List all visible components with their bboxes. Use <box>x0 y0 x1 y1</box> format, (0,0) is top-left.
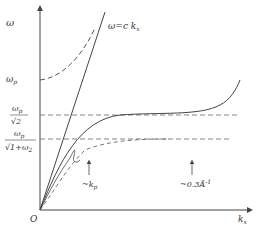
wavenumber-annotation: ~0.3Å-1 <box>180 178 211 189</box>
omega-p-tick-label: ωp <box>6 74 17 86</box>
origin-label: O <box>30 214 38 224</box>
kp-annotation: ~kp <box>82 180 98 191</box>
svg-text:√1+ω2: √1+ω2 <box>5 143 32 153</box>
svg-text:ωp: ωp <box>14 129 25 140</box>
omega-p-sqrt2-tick-label: ωp √2 <box>10 104 28 126</box>
svg-text:ωp: ωp <box>12 104 23 115</box>
light-line-label: ω=c kx <box>108 21 140 32</box>
x-axis-label: kx <box>238 214 247 225</box>
dispersion-diagram: ω ω=c kx ωp ωp √2 ωp √1+ω2 ~kp ~0.3Å-1 O… <box>0 0 256 229</box>
svg-text:√2: √2 <box>11 117 21 126</box>
omega-p-sqrt-eps-tick-label: ωp √1+ω2 <box>5 129 36 153</box>
spp-curve <box>40 80 240 210</box>
y-axis-label: ω <box>6 17 14 28</box>
light-line <box>40 12 105 210</box>
upper-branch-curve <box>40 28 95 80</box>
